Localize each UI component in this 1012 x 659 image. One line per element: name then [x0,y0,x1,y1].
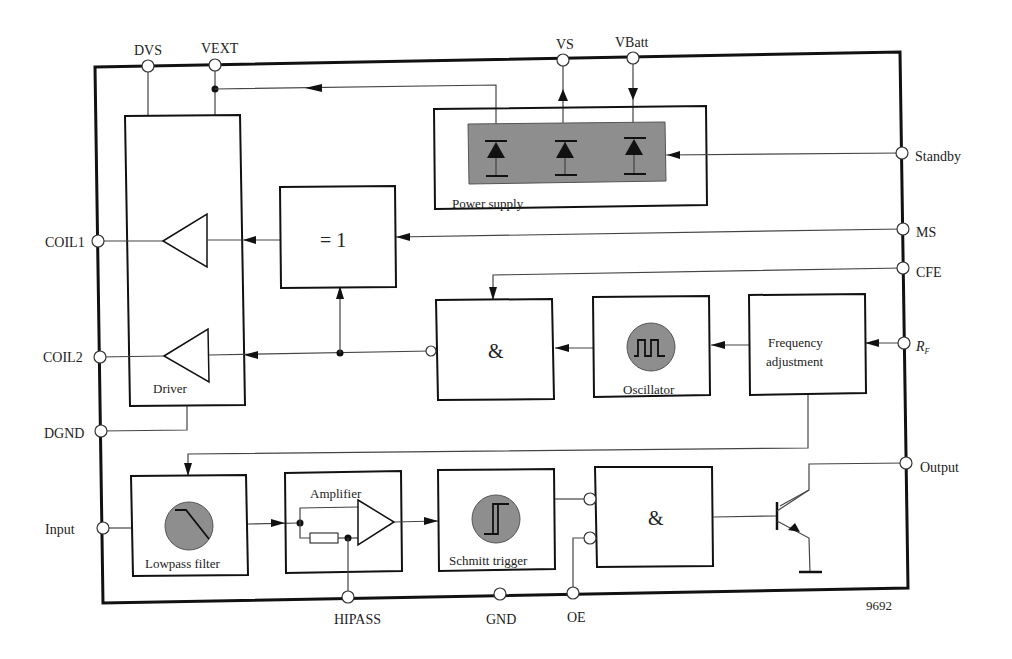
opamp-icon [358,500,394,545]
pin-label-cfe: CFE [916,265,942,280]
lowpass-filter-block: Lowpass filter [131,475,248,576]
resistor-icon [310,533,338,543]
pin-label-vext: VEXT [201,41,239,56]
pin-hipass: HIPASS [334,538,381,627]
lowpass-filter-label: Lowpass filter [145,556,220,571]
and-top-block: & [426,299,554,400]
pin-dgnd: DGND [44,406,187,441]
pin-output: Output [780,457,959,506]
oscillator-block: Oscillator [593,296,710,397]
pin-oe: OE [567,538,586,625]
amplifier-block: Amplifier [285,471,402,573]
pin-coil2: COIL2 [43,350,164,365]
buffer-icon [163,214,207,267]
pin-label-oe: OE [567,610,586,625]
and-bottom-block: & [584,467,713,567]
driver-block: Driver [125,115,245,406]
pin-label-coil2: COIL2 [43,350,83,365]
pin-label-rf: RF [915,339,930,356]
pin-ms: MS [396,223,936,241]
pin-label-dgnd: DGND [44,426,84,441]
pin-label-standby: Standby [915,149,961,164]
pin-dvs: DVS [134,43,162,116]
pin-label-coil1: COIL1 [45,235,85,250]
xor-block: = 1 [280,186,396,288]
block-diagram: DVS VEXT VS VBatt [0,0,1012,659]
frequency-adjustment-block: Frequency adjustment [749,294,866,395]
driver-label: Driver [153,381,188,396]
pin-standby: Standby [666,147,961,164]
oscillator-label: Oscillator [623,382,675,397]
pin-label-hipass: HIPASS [334,612,381,627]
pin-label-vbatt: VBatt [615,35,649,50]
pin-label-ms: MS [916,225,936,240]
power-supply-block: Power supply [434,106,707,211]
and-top-label: & [488,340,504,362]
pin-input: Input [45,522,131,537]
pin-label-input: Input [45,522,75,537]
pin-cfe: CFE [489,262,942,300]
schmitt-trigger-block: Schmitt trigger [438,469,555,571]
schmitt-trigger-label: Schmitt trigger [449,553,528,568]
buffer-icon [164,329,209,382]
pin-label-vs: VS [556,37,574,52]
frequency-adjustment-label-2: adjustment [766,354,823,369]
figure-number: 9692 [866,598,892,613]
and-bottom-label: & [648,507,664,529]
pin-gnd: GND [486,588,516,627]
transistor-icon [713,490,822,572]
xor-label: = 1 [320,229,346,251]
pin-coil1: COIL1 [45,235,163,250]
pin-vext: VEXT [201,41,239,116]
frequency-adjustment-label: Frequency [768,335,823,350]
power-supply-label: Power supply [452,196,524,211]
pin-label-gnd: GND [486,612,516,627]
pin-label-dvs: DVS [134,43,162,58]
pin-rf: RF [865,337,930,356]
amplifier-label: Amplifier [310,486,362,501]
pin-label-output: Output [920,460,959,475]
